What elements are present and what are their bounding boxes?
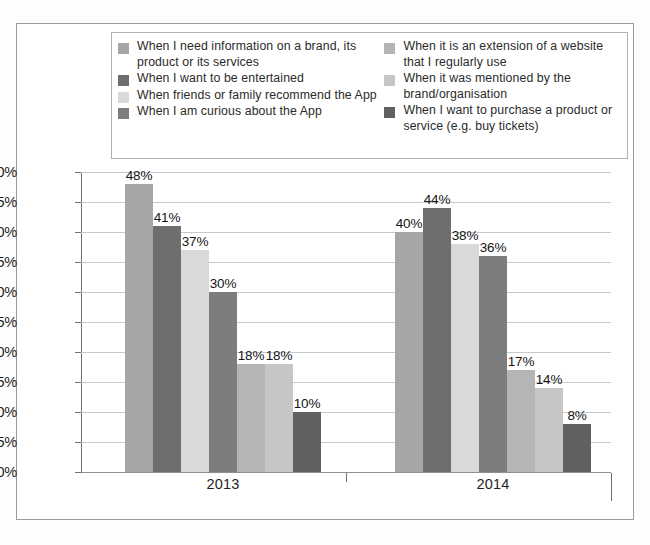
y-axis-label: 50% xyxy=(0,164,17,180)
bar[interactable]: 37% xyxy=(181,250,209,472)
legend-item-label: When I want to be entertained xyxy=(137,71,304,87)
chart-frame: When I need information on a brand, its … xyxy=(16,23,634,520)
bar[interactable]: 17% xyxy=(507,370,535,472)
y-axis-label: 10% xyxy=(0,404,17,420)
bar-value-label: 30% xyxy=(210,276,236,291)
x-axis-label: 2013 xyxy=(125,476,321,492)
legend-swatch-icon xyxy=(384,75,395,86)
legend-item[interactable]: When I want to be entertained xyxy=(118,71,384,87)
bar-value-label: 14% xyxy=(536,372,562,387)
bar[interactable]: 18% xyxy=(265,364,293,472)
bar[interactable]: 36% xyxy=(479,256,507,472)
legend-swatch-icon xyxy=(118,43,129,54)
legend-item-label: When I want to purchase a product or ser… xyxy=(403,103,623,134)
bar-group-2014: 40%44%38%36%17%14%8% xyxy=(395,172,591,472)
y-axis-tick xyxy=(75,232,81,233)
chart-legend: When I need information on a brand, its … xyxy=(111,32,628,159)
y-axis-label: 45% xyxy=(0,194,17,210)
bar-value-label: 10% xyxy=(294,396,320,411)
y-axis-tick xyxy=(75,412,81,413)
y-axis-tick xyxy=(75,472,81,473)
x-axis-tick xyxy=(346,473,347,482)
legend-item-label: When I am curious about the App xyxy=(137,104,322,120)
y-axis-tick xyxy=(75,172,81,173)
y-axis-label: 30% xyxy=(0,284,17,300)
bar[interactable]: 41% xyxy=(153,226,181,472)
legend-item[interactable]: When it is an extension of a website tha… xyxy=(384,39,623,70)
bar-group-2013: 48%41%37%30%18%18%10% xyxy=(125,172,321,472)
legend-item[interactable]: When I am curious about the App xyxy=(118,104,384,120)
legend-item-label: When friends or family recommend the App xyxy=(137,88,377,104)
chart-page: When I need information on a brand, its … xyxy=(0,0,650,545)
bar-value-label: 17% xyxy=(508,354,534,369)
legend-item[interactable]: When I want to purchase a product or ser… xyxy=(384,103,623,134)
y-axis-label: 15% xyxy=(0,374,17,390)
y-axis-label: 25% xyxy=(0,314,17,330)
y-axis-label: 5% xyxy=(0,434,17,450)
y-axis-tick xyxy=(75,382,81,383)
y-axis-tick xyxy=(75,262,81,263)
legend-swatch-icon xyxy=(118,75,129,86)
legend-item[interactable]: When I need information on a brand, its … xyxy=(118,39,384,70)
y-axis-tick xyxy=(75,352,81,353)
bar[interactable]: 18% xyxy=(237,364,265,472)
y-axis-tick xyxy=(75,202,81,203)
y-axis-label: 35% xyxy=(0,254,17,270)
legend-item[interactable]: When friends or family recommend the App xyxy=(118,88,384,104)
bar-value-label: 48% xyxy=(126,168,152,183)
bar-value-label: 41% xyxy=(154,210,180,225)
bar-value-label: 8% xyxy=(567,408,586,423)
legend-swatch-icon xyxy=(384,107,395,118)
x-axis-label: 2014 xyxy=(395,476,591,492)
bar[interactable]: 38% xyxy=(451,244,479,472)
legend-column-right: When it is an extension of a website tha… xyxy=(384,39,623,154)
bar[interactable]: 40% xyxy=(395,232,423,472)
bar-value-label: 37% xyxy=(182,234,208,249)
bar-value-label: 40% xyxy=(396,216,422,231)
bar[interactable]: 10% xyxy=(293,412,321,472)
y-axis-label: 20% xyxy=(0,344,17,360)
y-axis-label: 0% xyxy=(0,464,17,480)
bar-value-label: 38% xyxy=(452,228,478,243)
legend-swatch-icon xyxy=(118,108,129,119)
y-axis-tick xyxy=(75,322,81,323)
legend-item-label: When I need information on a brand, its … xyxy=(137,39,384,70)
bar-value-label: 18% xyxy=(266,348,292,363)
bar[interactable]: 48% xyxy=(125,184,153,472)
y-axis-label: 40% xyxy=(0,224,17,240)
bar[interactable]: 8% xyxy=(563,424,591,472)
y-axis-tick xyxy=(75,442,81,443)
x-axis-tick xyxy=(611,473,612,501)
legend-swatch-icon xyxy=(118,92,129,103)
bar[interactable]: 30% xyxy=(209,292,237,472)
legend-column-left: When I need information on a brand, its … xyxy=(118,39,384,154)
plot-area: 50%45%40%35%30%25%20%15%10%5%0%48%41%37%… xyxy=(81,172,611,472)
bar-value-label: 18% xyxy=(238,348,264,363)
legend-swatch-icon xyxy=(384,43,395,54)
bar-value-label: 36% xyxy=(480,240,506,255)
legend-item-label: When it was mentioned by the brand/organ… xyxy=(403,71,623,102)
bar-value-label: 44% xyxy=(424,192,450,207)
legend-item[interactable]: When it was mentioned by the brand/organ… xyxy=(384,71,623,102)
bar[interactable]: 14% xyxy=(535,388,563,472)
legend-item-label: When it is an extension of a website tha… xyxy=(403,39,623,70)
y-axis-tick xyxy=(75,292,81,293)
bar[interactable]: 44% xyxy=(423,208,451,472)
